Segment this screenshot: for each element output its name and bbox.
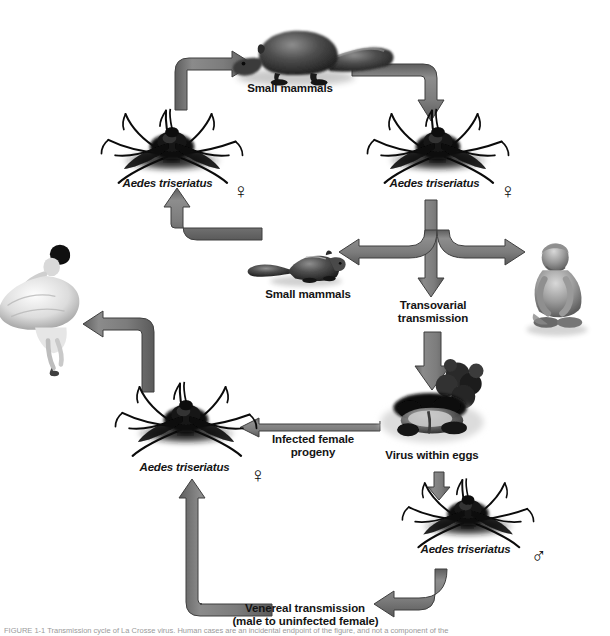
- female-symbol-lower-left: ♀: [250, 464, 266, 485]
- figure-caption: FIGURE 1-1 Transmission cycle of La Cros…: [4, 626, 604, 636]
- label-infected-progeny-line2: progeny: [258, 446, 368, 459]
- label-aedes-lower-right: Aedes triseriatus: [403, 543, 528, 556]
- female-symbol-upper-right: ♀: [500, 180, 516, 201]
- child-icon: [526, 243, 587, 336]
- figure-panel: Small mammals Aedes triseriatus ♀ Aedes …: [0, 0, 610, 636]
- edge-ll-mosquito-to-woman: [83, 311, 154, 392]
- male-symbol-lower-right: ♂: [531, 545, 547, 566]
- label-aedes-lower-left: Aedes triseriatus: [122, 461, 247, 474]
- label-venereal-line1: Venereal transmission: [215, 602, 395, 615]
- mosquito-icon-upper-right: [367, 109, 508, 183]
- label-aedes-upper-right: Aedes triseriatus: [372, 177, 497, 190]
- label-transovarial-line2: transmission: [383, 312, 483, 325]
- label-small-mammals-top: Small mammals: [235, 82, 345, 95]
- mosquito-icon-lower-left: [115, 382, 256, 456]
- dancing-woman-icon: [0, 245, 79, 377]
- mosquito-icon-upper-left: [101, 109, 242, 183]
- female-symbol-upper-left: ♀: [233, 180, 249, 201]
- label-small-mammals-middle: Small mammals: [253, 288, 363, 301]
- label-aedes-upper-left: Aedes triseriatus: [105, 177, 230, 190]
- chipmunk-icon: [248, 251, 346, 287]
- label-infected-progeny-line1: Infected female: [258, 433, 368, 446]
- transmission-cycle-diagram: [0, 0, 610, 636]
- label-transovarial-line1: Transovarial: [383, 299, 483, 312]
- squirrel-icon: [233, 31, 394, 86]
- mosquito-icon-lower-right: [402, 478, 533, 547]
- label-virus-within-eggs: Virus within eggs: [377, 449, 487, 462]
- edge-ur-mosquito-three-way-branch: [339, 200, 525, 297]
